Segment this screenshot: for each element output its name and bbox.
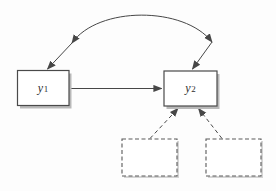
diagram-svg — [0, 0, 276, 191]
node-unlabeled-left-box — [122, 139, 177, 176]
path-diagram-canvas: y1 y2 — [0, 0, 276, 191]
covariance-connector-left-arrow — [48, 43, 73, 69]
dashed-arrow-left-to-y2 — [150, 109, 178, 139]
node-y2-box — [164, 71, 217, 106]
node-y2 — [164, 71, 220, 109]
dashed-arrow-right-to-y2 — [199, 109, 223, 139]
node-unlabeled-right — [206, 139, 263, 178]
node-y1 — [18, 71, 72, 109]
node-unlabeled-left — [122, 139, 179, 178]
covariance-double-arrow — [72, 15, 212, 43]
covariance-connector-right-arrow — [193, 42, 213, 69]
node-unlabeled-right-box — [206, 139, 261, 176]
node-y1-box — [18, 71, 70, 106]
